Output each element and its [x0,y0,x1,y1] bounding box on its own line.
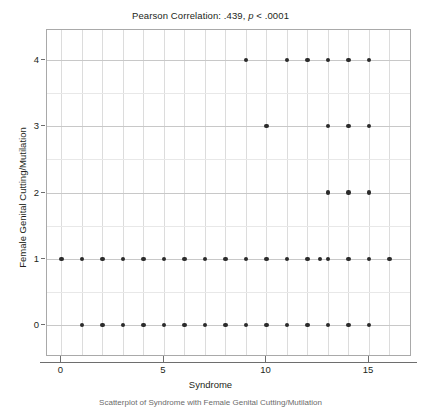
data-point [223,257,227,261]
gridline-horizontal-minor [47,159,410,160]
chart-title-prefix: Pearson Correlation: .439, [132,10,248,21]
data-point [141,257,145,261]
y-axis-tick-mark [41,324,45,325]
data-point [367,124,371,128]
y-axis-tick-label: 4 [9,53,39,64]
data-point [244,323,248,327]
data-point [326,190,330,194]
data-point [326,257,330,261]
x-axis-tick-mark [60,356,61,362]
data-point [346,124,350,128]
data-point [203,323,207,327]
data-point [59,257,63,261]
data-point [367,190,371,194]
data-point [346,58,350,62]
data-point [346,190,350,194]
data-point [326,124,330,128]
data-point [285,323,289,327]
data-point [244,257,248,261]
data-point [346,257,350,261]
gridline-horizontal-minor [47,93,410,94]
gridline-horizontal-minor [47,226,410,227]
data-point [305,323,309,327]
data-point [141,323,145,327]
data-point [100,323,104,327]
data-point [264,323,268,327]
y-axis-tick-mark [41,59,45,60]
y-axis-tick-mark [41,258,45,259]
plot-area [46,29,411,356]
gridline-horizontal [47,193,410,194]
x-axis-line [40,362,417,363]
data-point [305,58,309,62]
y-axis-tick-label: 0 [9,319,39,330]
data-point [182,323,186,327]
gridline-horizontal-minor [47,292,410,293]
gridline-horizontal [47,126,410,127]
data-point [182,257,186,261]
data-point [367,58,371,62]
y-axis-tick-mark [41,125,45,126]
x-axis-tick-label: 15 [353,364,383,375]
data-point [162,257,166,261]
data-point [346,323,350,327]
data-point [80,257,84,261]
data-point [121,257,125,261]
x-axis-tick-label: 5 [148,364,178,375]
x-axis-tick-mark [368,356,369,362]
data-point [367,257,371,261]
data-point [387,257,391,261]
data-point [223,323,227,327]
x-axis-title: Syndrome [0,379,421,390]
data-point [100,257,104,261]
data-point [318,257,322,261]
gridline-horizontal [47,60,410,61]
data-point [285,58,289,62]
y-axis-title: Female Genital Cutting/Mutilation [17,88,28,308]
data-point [264,257,268,261]
data-point [367,323,371,327]
data-point [305,257,309,261]
x-axis-tick-label: 0 [45,364,75,375]
x-axis-tick-mark [265,356,266,362]
data-point [326,58,330,62]
data-point [244,58,248,62]
data-point [326,323,330,327]
figure-caption: Scatterplot of Syndrome with Female Geni… [0,398,421,407]
data-point [285,257,289,261]
x-axis-tick-label: 10 [250,364,280,375]
data-point [80,323,84,327]
chart-title: Pearson Correlation: .439, p < .0001 [0,10,421,21]
x-axis-tick-mark [163,356,164,362]
data-point [264,124,268,128]
data-point [121,323,125,327]
data-point [162,323,166,327]
y-axis-tick-mark [41,192,45,193]
chart-title-suffix: < .0001 [254,10,289,21]
data-point [203,257,207,261]
